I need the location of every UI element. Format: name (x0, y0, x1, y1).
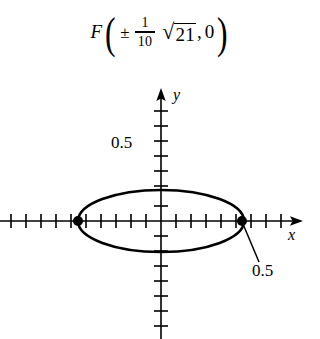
fraction-numerator: 1 (138, 15, 151, 30)
fraction-bar (135, 31, 155, 32)
radical-sign-icon: √ (162, 22, 174, 42)
formula-comma: , (197, 21, 202, 42)
focus-point-right (237, 216, 247, 226)
formula-function-name: F (91, 21, 103, 43)
ellipse-graph: y x 0.5 0.5 (0, 60, 320, 339)
plus-minus-sign: ± (120, 23, 130, 43)
focus-point-left (73, 216, 83, 226)
callout-leader-line (243, 224, 259, 262)
y-axis-tick-label-half: 0.5 (111, 133, 132, 153)
x-axis-label: x (288, 226, 295, 244)
vertex-callout-label-half: 0.5 (252, 261, 273, 281)
radicand: 21 (174, 23, 195, 44)
formula-zero: 0 (205, 21, 215, 42)
formula-radical: √ 21 (162, 23, 196, 44)
formula-fraction: 1 10 (135, 15, 155, 49)
formula-second-coordinate: ,0 (197, 21, 215, 43)
y-axis-label: y (173, 86, 180, 104)
focus-formula: F ( ± 1 10 √ 21 ,0 ) (0, 4, 320, 60)
fraction-denominator: 10 (135, 34, 155, 49)
